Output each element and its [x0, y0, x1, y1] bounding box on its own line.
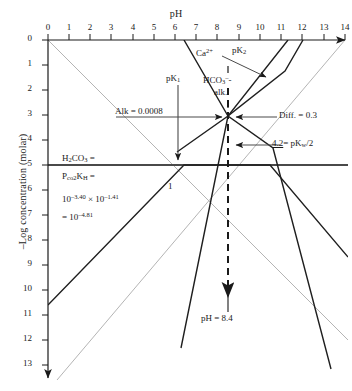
annotation-pk2: pK2	[232, 45, 246, 56]
x-tick-12: 12	[294, 22, 310, 32]
x-tick-3: 3	[103, 22, 119, 32]
y-axis-ticks	[42, 40, 48, 365]
pkw-divisor: /2	[306, 138, 313, 148]
annotation-slope-one: 1	[168, 181, 173, 192]
annotation-pk1: pK1	[166, 73, 180, 84]
pk2-symbol: pK	[232, 45, 243, 55]
x-tick-1: 1	[61, 22, 77, 32]
series-hco3-minus	[48, 165, 348, 305]
formula-ten2: × 10	[86, 194, 105, 204]
formula-co: CO	[72, 153, 85, 163]
x-axis-ticks	[48, 34, 345, 40]
x-tick-8: 8	[209, 22, 225, 32]
series-h-plus	[48, 40, 350, 342]
x-tick-5: 5	[146, 22, 162, 32]
y-tick-4: 4	[16, 133, 32, 143]
x-tick-10: 10	[252, 22, 268, 32]
x-tick-11: 11	[273, 22, 289, 32]
x-tick-0: 0	[40, 22, 56, 32]
pk1-subscript: 1	[177, 76, 180, 83]
y-tick-1: 1	[16, 58, 32, 68]
formula-eq2: =	[88, 171, 95, 181]
y-tick-12: 12	[10, 333, 32, 343]
pkw-value: 4.2	[272, 138, 283, 148]
pkw-equals: = pK	[283, 138, 301, 148]
annotation-alk-short: alk.	[214, 87, 227, 98]
bicarbonate-symbol: HCO	[203, 75, 222, 85]
calcium-symbol: Ca	[196, 48, 206, 58]
y-tick-7: 7	[16, 208, 32, 218]
y-tick-6: 6	[16, 183, 32, 193]
calcium-charge: 2+	[206, 47, 213, 54]
formula-exp1: –3.40	[71, 193, 86, 200]
y-tick-9: 9	[16, 258, 32, 268]
y-tick-2: 2	[16, 83, 32, 93]
x-tick-13: 13	[316, 22, 332, 32]
x-tick-14: 14	[337, 22, 352, 32]
formula-ten1: 10	[62, 194, 71, 204]
y-tick-13: 13	[10, 358, 32, 368]
annotation-bicarbonate: HCO3–-	[203, 74, 232, 86]
formula-h2co3-line4: = 10–4.81	[62, 210, 93, 224]
x-tick-7: 7	[188, 22, 204, 32]
formula-h2co3-line3: 10–3.40 × 10–1.41	[62, 192, 119, 206]
y-tick-0: 0	[16, 33, 32, 43]
x-axis-title: pH	[0, 8, 352, 19]
y-tick-8: 8	[16, 233, 32, 243]
y-tick-11: 11	[10, 308, 32, 318]
pk1-symbol: pK	[166, 73, 177, 83]
y-tick-10: 10	[10, 283, 32, 293]
x-tick-9: 9	[231, 22, 247, 32]
x-tick-6: 6	[167, 22, 183, 32]
series-group	[48, 40, 350, 380]
annotation-calcium: Ca2+	[196, 47, 213, 59]
formula-result: = 10	[62, 212, 78, 222]
formula-eq1: =	[88, 153, 95, 163]
x-tick-2: 2	[82, 22, 98, 32]
annotation-diff: Diff. = 0.3	[279, 110, 317, 121]
bicarbonate-dash: -	[229, 75, 232, 85]
y-tick-3: 3	[16, 108, 32, 118]
y-tick-5: 5	[16, 158, 32, 168]
formula-h2co3-line1: H2CO3 =	[62, 152, 95, 165]
pk2-subscript: 2	[243, 48, 246, 55]
annotation-alk-value: Alk = 0.0008	[115, 106, 163, 117]
series-oh-minus	[57, 40, 345, 380]
log-concentration-diagram	[0, 0, 352, 391]
x-tick-4: 4	[125, 22, 141, 32]
annotation-pkw: 4.2= pKw/2	[272, 138, 313, 149]
formula-result-exp: –4.81	[78, 211, 93, 218]
annotation-ph-marker: pH = 8.4	[201, 313, 233, 324]
formula-exp2: –1.41	[104, 193, 119, 200]
formula-h2co3-line2: Pco2KH =	[62, 170, 95, 183]
